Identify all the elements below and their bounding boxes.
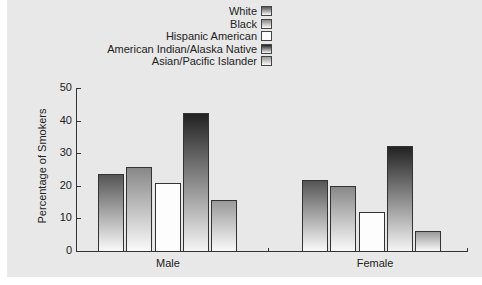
asian-swatch (261, 56, 272, 66)
legend-item-white: White (107, 5, 272, 18)
y-tick-label: 10 (52, 211, 72, 223)
bar-female-3 (387, 146, 413, 252)
bar-male-0 (98, 174, 124, 252)
y-tick (76, 186, 81, 187)
y-tick (76, 153, 81, 154)
legend: White Black Hispanic American American I… (107, 5, 272, 68)
bar-male-2 (155, 183, 181, 252)
bar-female-4 (415, 231, 441, 252)
y-tick-label: 30 (52, 146, 72, 158)
hispanic-swatch (261, 31, 272, 41)
legend-item-black: Black (107, 18, 272, 31)
legend-item-aian: American Indian/Alaska Native (107, 43, 272, 56)
legend-item-hispanic: Hispanic American (107, 30, 272, 43)
black-swatch (261, 19, 272, 29)
bar-male-4 (211, 200, 237, 252)
bar-female-1 (330, 186, 356, 252)
y-tick (76, 121, 81, 122)
aian-swatch (261, 44, 272, 54)
y-tick (76, 218, 81, 219)
bar-male-3 (183, 113, 209, 252)
y-tick-label: 20 (52, 179, 72, 191)
y-tick (76, 88, 81, 89)
y-tick-label: 0 (52, 244, 72, 256)
y-tick-label: 50 (52, 81, 72, 93)
legend-item-asian: Asian/Pacific Islander (107, 55, 272, 68)
white-swatch (261, 6, 272, 16)
x-divider-tick (268, 248, 269, 252)
bar-female-0 (302, 180, 328, 252)
bar-female-2 (359, 212, 385, 252)
y-axis-label: Percentage of Smokers (36, 96, 48, 236)
category-label-female: Female (335, 257, 415, 269)
category-label-male: Male (128, 257, 208, 269)
y-tick-label: 40 (52, 114, 72, 126)
x-end-tick (467, 248, 468, 252)
y-tick (76, 251, 81, 252)
bar-male-1 (126, 167, 152, 252)
y-axis (76, 88, 77, 251)
